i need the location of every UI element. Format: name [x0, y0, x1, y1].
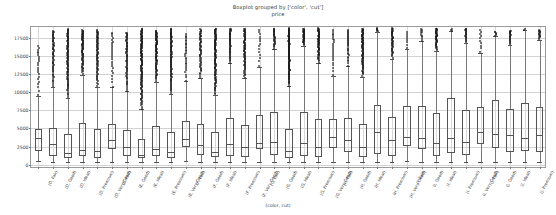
x-tick-label: (J, Ideal)	[519, 170, 531, 187]
y-tick-label: 2500	[17, 144, 29, 149]
x-tick-label: (D, Ideal)	[78, 170, 91, 189]
x-tick-label: (E, Good)	[137, 170, 150, 189]
whisker	[540, 152, 541, 163]
y-tick-label: 0	[26, 162, 29, 167]
y-tick-mark	[29, 110, 31, 111]
x-tick-label: (G, Premium)	[318, 170, 335, 196]
x-tick-label: (J, Premium)	[538, 170, 554, 195]
y-tick-mark	[29, 128, 31, 129]
x-tick-label: (F, Good)	[211, 170, 224, 189]
x-tick-label: (J, Fair)	[488, 170, 499, 185]
whisker	[540, 40, 541, 107]
plot-axes: 025005000750010000125001500017500	[30, 26, 546, 168]
chart-title: Boxplot grouped by ['color', 'cut']	[0, 4, 556, 11]
y-tick-label: 15000	[14, 53, 29, 58]
chart-subtitle: price	[0, 11, 556, 18]
boxplot-figure: Boxplot grouped by ['color', 'cut'] pric…	[0, 0, 556, 215]
x-tick-label: (I, Good)	[431, 170, 444, 188]
y-tick-label: 5000	[17, 126, 29, 131]
x-tick-label: (F, Premium)	[244, 170, 261, 196]
x-tick-label: (G, Good)	[285, 170, 299, 190]
x-tick-label: (G, Ideal)	[299, 170, 312, 189]
y-tick-mark	[29, 74, 31, 75]
x-tick-label: (H, Good)	[358, 170, 372, 190]
box	[536, 107, 544, 152]
x-tick-label: (F, Fair)	[194, 170, 206, 186]
x-tick-label: (H, Fair)	[342, 170, 354, 187]
y-tick-label: 7500	[17, 108, 29, 113]
x-tick-label: (D, Fair)	[47, 170, 59, 187]
x-tick-label: (D, Good)	[64, 170, 78, 190]
y-tick-label: 17500	[14, 35, 29, 40]
x-tick-label: (H, Premium)	[392, 170, 409, 196]
x-tick-label: (H, Ideal)	[373, 170, 386, 189]
y-tick-mark	[29, 147, 31, 148]
x-tick-label: (I, Fair)	[415, 170, 426, 185]
x-tick-label: (I, Ideal)	[445, 170, 457, 187]
y-tick-label: 10000	[14, 90, 29, 95]
y-tick-mark	[29, 38, 31, 39]
median-line	[536, 135, 544, 136]
y-tick-mark	[29, 165, 31, 166]
whisker-cap	[537, 162, 542, 163]
y-tick-label: 12500	[14, 72, 29, 77]
outlier-point	[538, 29, 540, 31]
x-tick-label: (D, Premium)	[97, 170, 114, 196]
boxplot-group	[31, 27, 545, 167]
x-tick-labels: (D, Fair)(D, Good)(D, Ideal)(D, Premium)…	[30, 168, 546, 204]
x-tick-label: (E, Premium)	[170, 170, 187, 196]
x-tick-label: (E, Fair)	[120, 170, 132, 186]
x-tick-label: (I, Premium)	[465, 170, 481, 195]
plot-area	[31, 27, 545, 167]
x-tick-label: (F, Ideal)	[225, 170, 238, 188]
x-axis-title: (color, cut)	[0, 203, 556, 208]
y-tick-mark	[29, 92, 31, 93]
y-tick-mark	[29, 56, 31, 57]
x-tick-label: (E, Ideal)	[151, 170, 164, 189]
x-tick-label: (J, Good)	[505, 170, 518, 188]
